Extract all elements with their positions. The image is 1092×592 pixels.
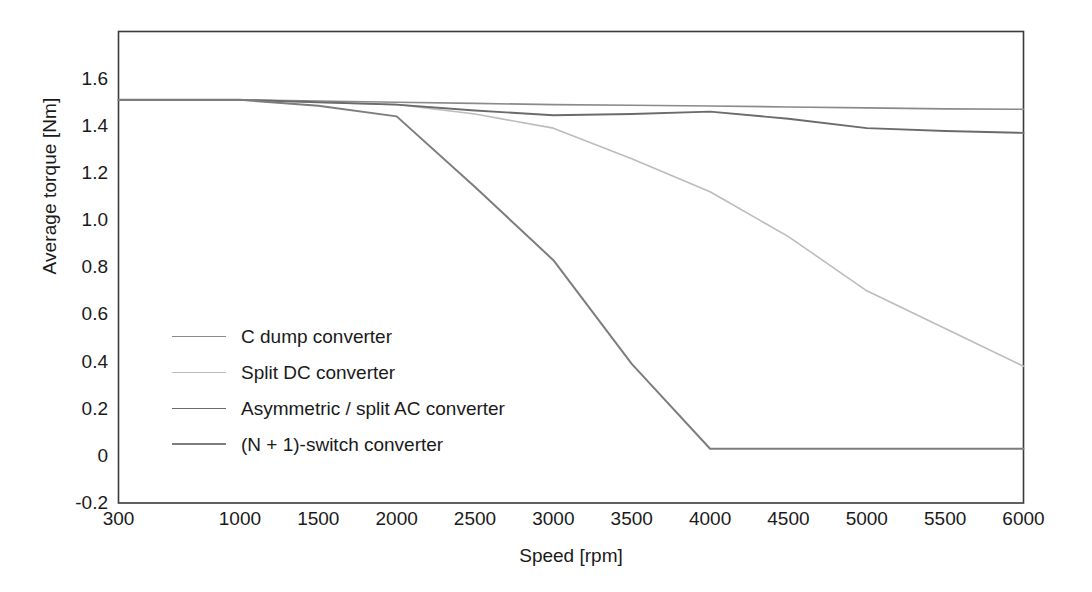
legend-swatch-line-icon	[172, 336, 226, 337]
legend-label: C dump converter	[241, 327, 392, 346]
chart-legend: C dump converterSplit DC converterAsymme…	[172, 318, 612, 462]
legend-item: (N + 1)-switch converter	[172, 426, 612, 462]
plot-area	[0, 0, 1092, 592]
legend-item: Split DC converter	[172, 354, 612, 390]
legend-item: Asymmetric / split AC converter	[172, 390, 612, 426]
legend-label: (N + 1)-switch converter	[241, 435, 443, 454]
legend-label: Split DC converter	[241, 363, 395, 382]
legend-swatch-line-icon	[172, 372, 226, 373]
legend-swatch-line-icon	[172, 443, 226, 445]
legend-label: Asymmetric / split AC converter	[241, 399, 505, 418]
legend-item: C dump converter	[172, 318, 612, 354]
chart-figure: Average torque [Nm] 1.61.41.21.00.80.60.…	[0, 0, 1092, 592]
legend-swatch-line-icon	[172, 408, 226, 409]
